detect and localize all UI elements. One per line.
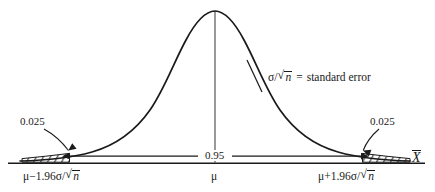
standard-error-note: σ/n=standard error bbox=[268, 70, 371, 84]
axis-variable-label: X bbox=[412, 150, 421, 166]
left-tail-leader-line bbox=[44, 129, 69, 151]
standard-error-equals-sign: = bbox=[292, 71, 307, 83]
upper-bound-label: μ+1.96σ/n bbox=[318, 169, 375, 183]
right-tail-probability-label: 0.025 bbox=[370, 116, 395, 127]
mean-tick-label: μ bbox=[211, 171, 217, 183]
x-bar-overline-icon: X bbox=[412, 150, 421, 166]
lower-bound-radicand: n bbox=[72, 170, 80, 183]
right-tail-leader-line bbox=[363, 129, 379, 151]
standard-error-radicand: n bbox=[284, 71, 292, 84]
upper-bound-sqrt-icon: n bbox=[360, 169, 375, 183]
lower-bound-coefficient: 1.96σ/ bbox=[36, 170, 66, 182]
upper-bound-coefficient: 1.96σ/ bbox=[331, 170, 361, 182]
lower-bound-sqrt-icon: n bbox=[65, 169, 80, 183]
standard-error-numerator: σ/ bbox=[268, 71, 277, 83]
left-tail-probability-label: 0.025 bbox=[20, 116, 45, 127]
upper-bound-radicand: n bbox=[367, 170, 375, 183]
standard-error-note-leader bbox=[247, 60, 262, 92]
confidence-level-label: 0.95 bbox=[202, 150, 227, 161]
lower-bound-label: μ−1.96σ/n bbox=[23, 169, 80, 183]
standard-error-sqrt-icon: n bbox=[277, 70, 292, 84]
figure-canvas bbox=[0, 0, 435, 192]
sampling-distribution-figure: 0.025 0.025 0.95 μ μ−1.96σ/n μ+1.96σ/n X… bbox=[0, 0, 435, 192]
standard-error-text: standard error bbox=[307, 71, 371, 83]
